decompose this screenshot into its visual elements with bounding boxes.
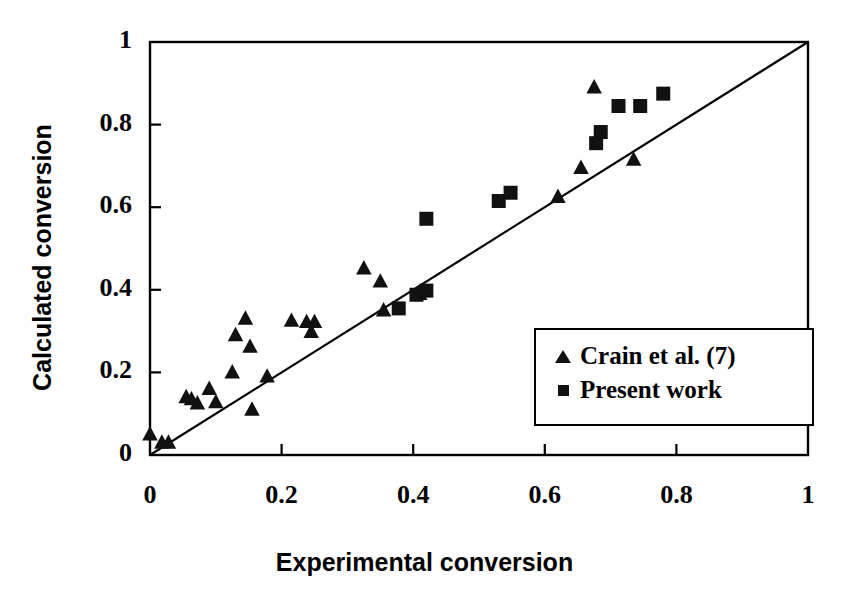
square-marker-icon	[552, 382, 574, 398]
x-tick-label: 0.6	[510, 480, 580, 510]
data-point-triangle	[238, 310, 254, 324]
y-tick-label: 0.6	[62, 190, 132, 220]
data-point-square	[594, 125, 608, 139]
data-point-square	[504, 186, 518, 200]
data-point-square	[633, 99, 647, 113]
data-point-square	[419, 212, 433, 226]
x-tick-label: 0.8	[641, 480, 711, 510]
data-point-triangle	[142, 426, 158, 440]
x-axis-title: Experimental conversion	[0, 548, 849, 577]
figure-container: Experimental conversion Calculated conve…	[0, 0, 849, 603]
data-point-triangle	[284, 312, 300, 326]
data-point-square	[656, 87, 670, 101]
y-tick-label: 0	[62, 438, 132, 468]
data-point-square	[611, 99, 625, 113]
data-point-square	[419, 284, 433, 298]
x-tick-label: 0.4	[378, 480, 448, 510]
legend-item-present-work[interactable]: Present work	[552, 373, 794, 407]
data-point-triangle	[573, 160, 589, 174]
y-tick-label: 0.2	[62, 355, 132, 385]
y-tick-label: 1	[62, 25, 132, 55]
x-tick-label: 0	[115, 480, 185, 510]
legend: Crain et al. (7) Present work	[534, 328, 814, 426]
x-tick-label: 1	[773, 480, 843, 510]
data-point-triangle	[225, 364, 241, 378]
data-point-square	[392, 301, 406, 315]
legend-label-present-work: Present work	[580, 376, 722, 404]
data-point-triangle	[626, 151, 642, 165]
data-point-triangle	[373, 273, 389, 287]
y-tick-label: 0.8	[62, 108, 132, 138]
y-tick-label: 0.4	[62, 273, 132, 303]
triangle-marker-icon	[552, 348, 574, 364]
y-axis-title: Calculated conversion	[28, 48, 57, 468]
data-point-triangle	[242, 338, 257, 352]
data-point-triangle	[356, 260, 372, 274]
legend-label-crain: Crain et al. (7)	[580, 342, 736, 370]
data-point-triangle	[259, 368, 275, 382]
legend-item-crain[interactable]: Crain et al. (7)	[552, 339, 794, 373]
data-point-triangle	[208, 394, 224, 408]
data-point-triangle	[586, 79, 602, 93]
data-point-triangle	[244, 401, 259, 415]
data-point-triangle	[201, 381, 217, 395]
data-point-triangle	[228, 327, 244, 341]
x-tick-label: 0.2	[247, 480, 317, 510]
series-present-work	[392, 87, 671, 316]
